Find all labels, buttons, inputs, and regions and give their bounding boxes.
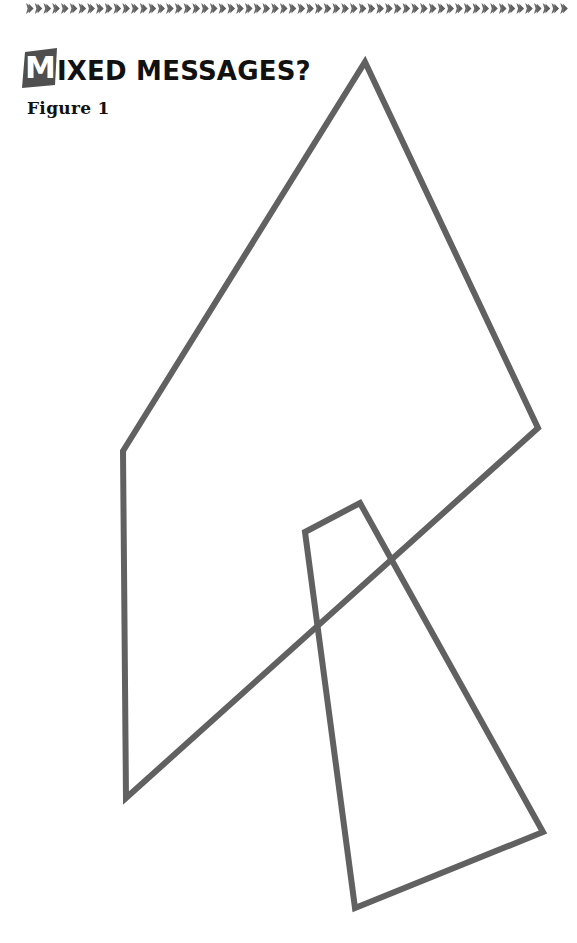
small-quadrilateral	[305, 503, 543, 908]
large-quadrilateral	[123, 62, 538, 798]
figure-diagram	[0, 0, 577, 943]
overlapping-quadrilaterals-drawing	[0, 0, 577, 943]
